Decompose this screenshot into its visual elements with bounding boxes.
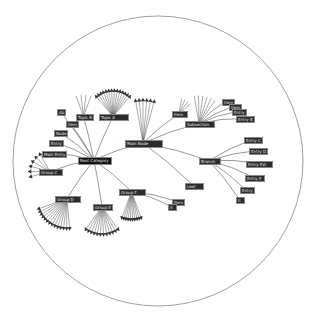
leaf-node-marker[interactable] — [148, 99, 152, 103]
tree-node[interactable]: Topic B — [76, 114, 94, 121]
tree-node[interactable]: Entry — [232, 109, 247, 116]
tree-node[interactable]: It — [236, 197, 245, 204]
tree-node[interactable]: Item — [172, 111, 188, 118]
tree-node[interactable]: Entry — [49, 140, 64, 147]
leaf-edge — [194, 96, 199, 124]
tree-node[interactable]: Entry E — [245, 175, 265, 182]
tree-node[interactable]: Topic A — [99, 114, 129, 121]
tree-node[interactable]: Subsection — [185, 121, 215, 128]
leaf-node-marker[interactable] — [144, 98, 148, 101]
leaf-node-marker[interactable] — [137, 98, 141, 101]
tree-node[interactable]: Entry — [240, 187, 255, 194]
tree-node[interactable]: Group C — [39, 169, 63, 176]
tree-node[interactable]: Group F — [119, 189, 146, 196]
leaf-edge — [139, 98, 143, 143]
tree-node[interactable]: Group D — [55, 196, 81, 203]
tree-node[interactable]: Group E — [93, 204, 113, 211]
root-node[interactable]: Root Category — [78, 157, 112, 165]
tree-node[interactable]: Branch — [199, 158, 221, 165]
leaf-node-marker[interactable] — [31, 160, 35, 164]
tree-node[interactable]: Main Entry — [42, 151, 67, 158]
tree-node[interactable]: Node — [54, 130, 68, 137]
leaf-edge — [135, 99, 143, 143]
leaf-node-marker[interactable] — [134, 99, 138, 103]
tree-edge — [143, 143, 194, 186]
tree-node[interactable]: Main Node — [125, 140, 163, 148]
tree-node[interactable]: Entry D — [249, 148, 268, 155]
tree-edge — [94, 117, 113, 161]
leaf-edge — [67, 199, 70, 231]
tree-node[interactable]: Entry B — [236, 116, 255, 123]
tree-node[interactable]: Item — [66, 121, 79, 128]
leaf-node-marker[interactable] — [141, 98, 145, 101]
tree-node[interactable]: Entry Ext — [246, 161, 273, 168]
leaf-node-marker[interactable] — [28, 169, 31, 173]
tree-edge — [94, 160, 102, 207]
tree-node[interactable]: Leaf — [185, 183, 204, 190]
tree-edge — [67, 160, 94, 199]
tree-node[interactable]: Entry C — [244, 137, 263, 144]
tree-node[interactable]: It — [168, 204, 177, 211]
hyperbolic-tree-diagram[interactable]: Root CategoryMain NodeSubsectionItemBran… — [0, 0, 315, 321]
tree-node[interactable]: Ab — [57, 109, 66, 116]
tree-edge — [84, 117, 95, 161]
